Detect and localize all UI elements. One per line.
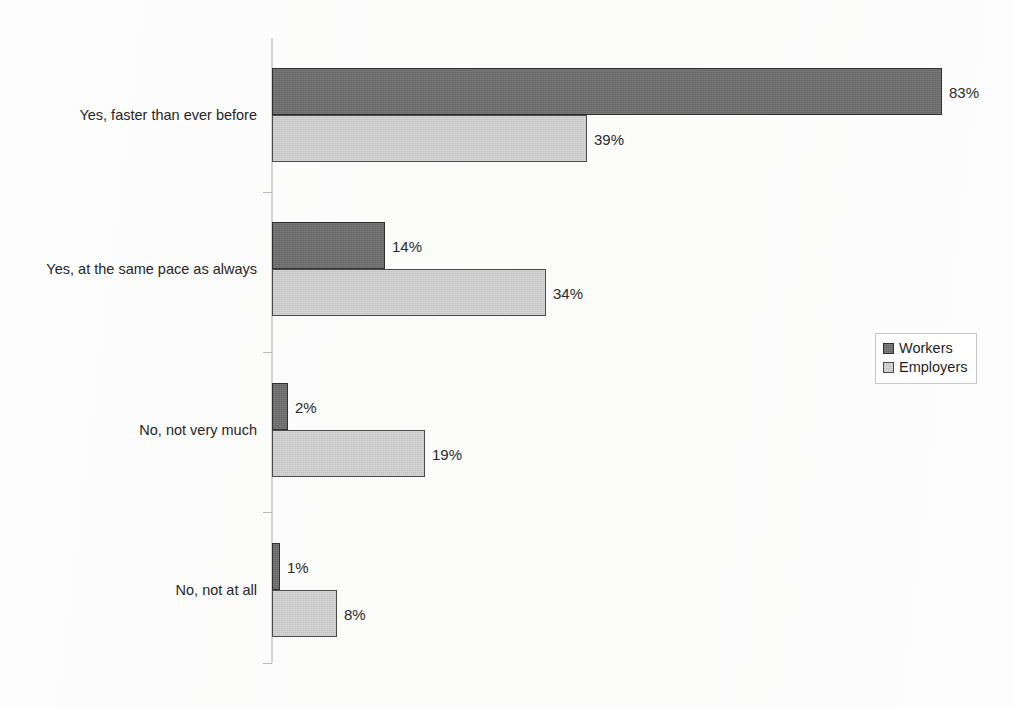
category-label: Yes, at the same pace as always xyxy=(46,262,257,277)
axis-tick-2 xyxy=(263,512,272,513)
bar-employers xyxy=(272,430,425,477)
axis-tick-0 xyxy=(263,192,272,193)
plot-area: Yes, faster than ever before83%39%Yes, a… xyxy=(0,0,1014,707)
legend-swatch-workers-icon xyxy=(883,343,894,354)
bar-workers xyxy=(272,222,385,269)
axis-tick-1 xyxy=(263,352,272,353)
category-label: No, not very much xyxy=(139,423,257,438)
category-label: No, not at all xyxy=(176,583,257,598)
chart-legend: Workers Employers xyxy=(875,333,977,384)
bar-employers xyxy=(272,115,587,162)
legend-item-workers: Workers xyxy=(883,339,968,358)
bar-workers xyxy=(272,383,288,430)
value-label-workers: 83% xyxy=(949,85,979,100)
legend-item-employers: Employers xyxy=(883,358,968,377)
value-label-employers: 19% xyxy=(432,447,462,462)
bar-chart: Yes, faster than ever before83%39%Yes, a… xyxy=(0,0,1014,707)
category-label: Yes, faster than ever before xyxy=(79,108,257,123)
axis-tick-3 xyxy=(263,663,272,664)
value-label-workers: 14% xyxy=(392,239,422,254)
value-label-employers: 39% xyxy=(594,132,624,147)
value-label-workers: 2% xyxy=(295,400,317,415)
bar-workers xyxy=(272,68,942,115)
value-label-employers: 8% xyxy=(344,607,366,622)
legend-swatch-employers-icon xyxy=(883,362,894,373)
cut-off-footer-artifact xyxy=(28,699,748,707)
value-label-workers: 1% xyxy=(287,560,309,575)
legend-label-workers: Workers xyxy=(899,341,953,356)
bar-workers xyxy=(272,543,280,590)
bar-employers xyxy=(272,269,546,316)
value-label-employers: 34% xyxy=(553,286,583,301)
bar-employers xyxy=(272,590,337,637)
legend-label-employers: Employers xyxy=(899,360,968,375)
